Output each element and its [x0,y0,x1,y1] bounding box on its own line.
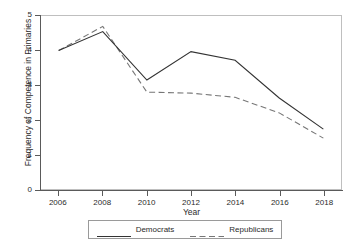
x-tick-label: 2008 [82,198,122,207]
chart-legend: Democrats Republicans [88,220,282,239]
series-line-republicans [59,26,324,138]
x-tick-label: 2010 [127,198,167,207]
x-tick-mark [102,191,103,196]
x-tick-mark [235,191,236,196]
series-line-democrats [59,32,324,130]
x-tick-mark [280,191,281,196]
legend-label-republicans: Republicans [229,225,273,234]
x-tick-mark [147,191,148,196]
x-tick-mark [191,191,192,196]
x-tick-label: 2014 [215,198,255,207]
y-tick-mark [35,155,40,156]
y-tick-mark [35,15,40,16]
y-tick-mark [35,50,40,51]
x-axis-title: Year [40,208,343,217]
legend-key-democrats [97,226,131,233]
x-tick-label: 2016 [260,198,300,207]
legend-key-republicans [190,226,224,233]
y-axis-line [40,15,41,191]
plot-canvas [41,16,341,189]
y-tick-label: 0 [16,186,32,194]
x-tick-mark [324,191,325,196]
x-tick-label: 2006 [38,198,78,207]
x-tick-label: 2012 [171,198,211,207]
y-tick-mark [35,190,40,191]
legend-item-republicans: Republicans [190,225,273,234]
plot-area [40,15,342,190]
chart-figure: 012345 2006200820102012201420162018 Freq… [0,0,358,252]
legend-label-democrats: Democrats [136,225,175,234]
y-tick-mark [35,120,40,121]
x-tick-mark [58,191,59,196]
x-tick-label: 2018 [304,198,344,207]
y-axis-title: Frequency of Competence in Primaries [24,3,33,183]
y-tick-mark [35,85,40,86]
legend-item-democrats: Democrats [97,225,175,234]
